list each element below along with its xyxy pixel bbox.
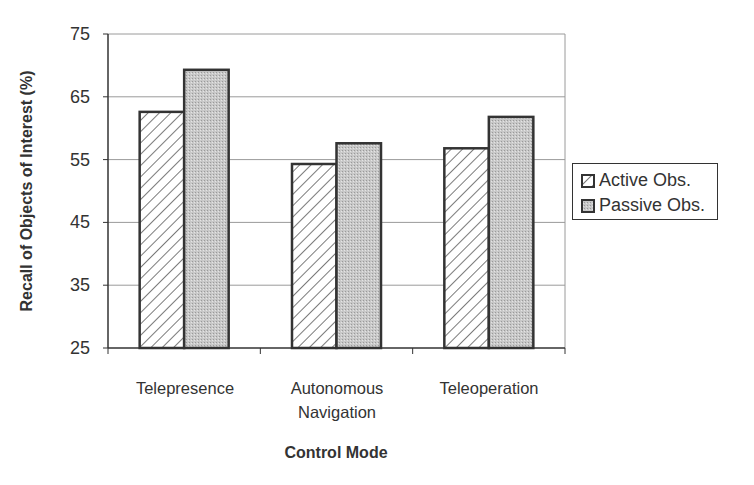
y-axis-label: Recall of Objects of Interest (%)	[18, 71, 36, 312]
y-tick-label: 25	[70, 338, 90, 359]
y-tick-label: 75	[70, 24, 90, 45]
bar-passive	[337, 143, 382, 348]
bars	[140, 70, 534, 348]
y-tick-label: 65	[70, 87, 90, 108]
hatch-swatch-icon	[581, 174, 595, 188]
legend-item-active: Active Obs.	[581, 168, 717, 193]
bar-active	[292, 164, 337, 348]
bar-active	[140, 112, 185, 348]
y-tick-label: 35	[70, 275, 90, 296]
legend: Active Obs. Passive Obs.	[572, 163, 718, 220]
bar-passive	[489, 117, 534, 348]
bar-passive	[184, 70, 229, 348]
x-tick-line: Teleoperation	[414, 376, 564, 400]
legend-label: Passive Obs.	[599, 195, 705, 216]
stipple-swatch-icon	[581, 199, 595, 213]
legend-item-passive: Passive Obs.	[581, 193, 717, 218]
x-tick-line: Navigation	[262, 400, 412, 424]
x-tick-line: Autonomous	[262, 376, 412, 400]
x-tick-label-autonomous-navigation: Autonomous Navigation	[262, 376, 412, 424]
legend-label: Active Obs.	[599, 170, 691, 191]
y-tick-label: 55	[70, 150, 90, 171]
bar-active	[444, 148, 489, 348]
x-tick-label-telepresence: Telepresence	[110, 376, 260, 400]
x-tick-label-teleoperation: Teleoperation	[414, 376, 564, 400]
x-axis-label: Control Mode	[284, 444, 387, 462]
x-tick-line: Telepresence	[110, 376, 260, 400]
y-tick-label: 45	[70, 212, 90, 233]
